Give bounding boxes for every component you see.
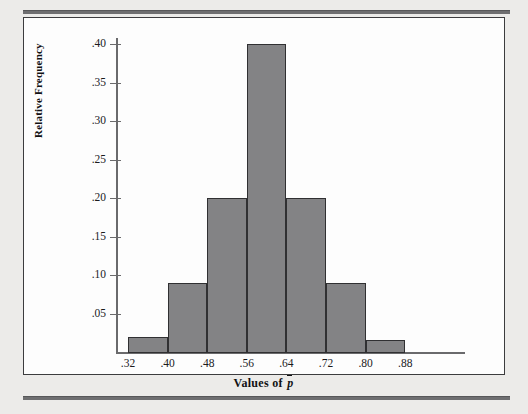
page-canvas: Relative Frequency .05.10.15.20.25.30.35…	[0, 0, 528, 414]
y-tick-label-text: .15	[78, 230, 106, 242]
y-tick-label-text: .40	[78, 37, 106, 49]
y-tick-mark	[110, 314, 121, 315]
y-tick-label-text: .30	[78, 114, 106, 126]
x-tick-label: .64	[266, 357, 306, 369]
histogram-bar	[207, 198, 247, 353]
y-tick-mark	[110, 44, 121, 45]
y-tick-mark	[110, 160, 121, 161]
histogram-bar	[286, 198, 326, 353]
x-axis-title: Values of p	[0, 376, 528, 391]
y-tick-mark	[110, 198, 121, 199]
x-tick-label: .72	[306, 357, 346, 369]
histogram-bar	[168, 283, 208, 353]
histogram-bar	[128, 337, 168, 353]
y-tick-label: .35	[76, 76, 106, 90]
y-tick-label-text: .25	[78, 153, 106, 165]
page-rule-top	[23, 10, 510, 14]
x-tick-label: .40	[148, 357, 188, 369]
x-tick-label: .80	[346, 357, 386, 369]
y-tick-label: .20	[76, 191, 106, 205]
x-tick-label: .32	[108, 357, 148, 369]
x-tick-label: .56	[227, 357, 267, 369]
y-tick-label: .10	[76, 268, 106, 282]
y-axis-line	[116, 38, 118, 353]
histogram-bar	[247, 44, 287, 353]
x-tick-label: .48	[187, 357, 227, 369]
y-tick-label: .25	[76, 153, 106, 167]
p-bar-symbol: p	[286, 376, 294, 390]
y-tick-label: .40	[76, 37, 106, 51]
histogram-bar	[326, 283, 366, 353]
y-tick-label-text: .20	[78, 191, 106, 203]
y-axis-title: Relative Frequency	[32, 0, 44, 138]
y-tick-mark	[110, 121, 121, 122]
y-tick-mark	[110, 237, 121, 238]
y-tick-label-text: .35	[78, 76, 106, 88]
histogram-bar	[366, 340, 406, 353]
histogram-plot: Relative Frequency .05.10.15.20.25.30.35…	[24, 18, 506, 376]
y-tick-mark	[110, 275, 121, 276]
figure-panel: Relative Frequency .05.10.15.20.25.30.35…	[23, 17, 505, 375]
y-tick-label-text: .05	[78, 307, 106, 319]
y-tick-label: .15	[76, 230, 106, 244]
x-axis-title-text: Values of	[234, 376, 287, 390]
y-tick-label: .30	[76, 114, 106, 128]
y-tick-label-text: .10	[78, 268, 106, 280]
y-tick-mark	[110, 83, 121, 84]
y-tick-label: .05	[76, 307, 106, 321]
x-tick-label: .88	[385, 357, 425, 369]
page-rule-bottom	[23, 396, 510, 400]
